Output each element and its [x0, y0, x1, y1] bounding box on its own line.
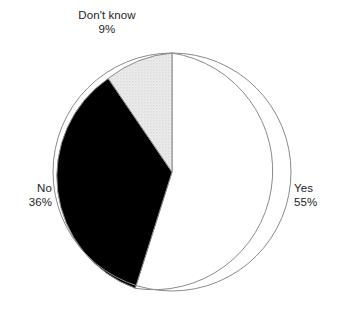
pie-label-yes-value: 55% [294, 196, 338, 210]
pie-label-no-value: 36% [8, 196, 52, 210]
pie-label-yes: Yes 55% [294, 182, 338, 209]
pie-label-dont-know: Don't know 9% [48, 9, 166, 36]
pie-label-dont-know-name: Don't know [48, 9, 166, 23]
pie-label-dont-know-value: 9% [48, 23, 166, 37]
pie-chart-canvas [0, 0, 341, 324]
pie-chart: Don't know 9% Yes 55% No 36% [0, 0, 341, 324]
pie-label-yes-name: Yes [294, 182, 338, 196]
pie-label-no: No 36% [8, 182, 52, 209]
pie-label-no-name: No [8, 182, 52, 196]
